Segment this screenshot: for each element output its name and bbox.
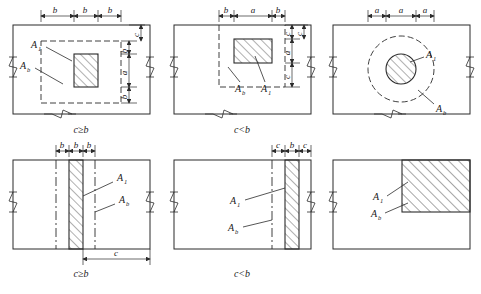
panel-5-a1-leader	[245, 188, 285, 200]
svg-text:A: A	[234, 83, 242, 94]
panel-6-a1-label: A 1	[372, 191, 383, 204]
svg-text:1: 1	[380, 197, 383, 204]
panel-4-dim-c: c	[114, 248, 118, 258]
panel-4-a1-label: A 1	[116, 172, 127, 185]
panel-4-a1-area	[69, 160, 83, 249]
panel-2-a1-area	[234, 39, 272, 63]
panel-2-ab-label: A b	[234, 83, 246, 96]
panel-4-ab-leader	[95, 204, 115, 212]
panel-4-ab-label: A b	[118, 194, 130, 207]
panel-1-dim-b2: b	[83, 5, 88, 15]
svg-text:1: 1	[268, 89, 271, 96]
svg-text:A: A	[116, 172, 124, 183]
panel-2-ab-leader	[228, 67, 240, 82]
panel-2-member	[174, 25, 311, 114]
panel-5-a1-area	[285, 160, 299, 249]
panel-5-caption: c<b	[234, 268, 250, 279]
panel-4-caption: c≥b	[74, 268, 89, 279]
svg-text:b: b	[126, 200, 130, 207]
panel-3	[329, 10, 474, 118]
panel-1-a1-area	[74, 54, 98, 87]
svg-text:1: 1	[237, 201, 240, 208]
svg-text:A: A	[372, 191, 380, 202]
svg-text:A: A	[435, 103, 443, 114]
svg-text:A: A	[19, 60, 27, 71]
panel-1-dim-b1: b	[53, 5, 58, 15]
panel-2-dim-b2: b	[276, 5, 281, 15]
panel-1-dim-ra: a	[119, 70, 129, 75]
panel-6	[329, 160, 470, 249]
panel-5-ab-leader	[243, 220, 272, 227]
svg-text:1: 1	[38, 45, 41, 52]
svg-text:A: A	[425, 49, 433, 60]
panel-2-dim-ra: a	[282, 50, 292, 55]
svg-text:A: A	[227, 222, 235, 233]
svg-text:1: 1	[124, 178, 127, 185]
panel-1-ab-leader	[35, 68, 63, 84]
panel-2-dim-c-outer: c	[294, 32, 304, 36]
panel-1-ab-label: A b	[19, 60, 31, 73]
svg-text:A: A	[370, 208, 378, 219]
panel-2-a1-label: A 1	[260, 83, 271, 96]
engineering-figure: b b b b a b c A 1 A b c≥b b a b c a c c …	[0, 0, 481, 294]
panel-2-dim-rc2: c	[282, 75, 292, 79]
panel-6-ab-label: A b	[370, 208, 382, 221]
panel-1-a1-leader	[46, 47, 72, 61]
panel-5-dim-c1: c	[276, 140, 280, 150]
panel-6-a1-area	[402, 160, 470, 212]
panel-5-dim-c2: c	[303, 140, 307, 150]
panel-3-a1-area	[386, 54, 416, 84]
svg-text:b: b	[27, 66, 31, 73]
panel-2	[170, 10, 315, 118]
panel-4-dim-b1: b	[60, 140, 65, 150]
svg-text:A: A	[30, 39, 38, 50]
svg-text:A: A	[229, 195, 237, 206]
panel-2-caption: c<b	[234, 124, 250, 135]
svg-text:A: A	[118, 194, 126, 205]
panel-5	[170, 145, 315, 249]
svg-text:A: A	[260, 83, 268, 94]
panel-3-a1-label: A 1	[425, 49, 436, 62]
panel-2-dim-rc1: c	[282, 32, 292, 36]
panel-1-caption: c≥b	[74, 124, 89, 135]
svg-text:1: 1	[433, 55, 436, 62]
panel-4-dim-b2: b	[74, 140, 79, 150]
panel-4-dim-b3: b	[87, 140, 92, 150]
panel-5-dim-b: b	[290, 140, 295, 150]
panel-4-a1-leader	[83, 182, 113, 196]
panel-1-dim-rb2: b	[119, 94, 129, 99]
panel-1-dim-b3: b	[108, 5, 113, 15]
panel-3-dim-a3: a	[423, 5, 428, 15]
svg-text:b: b	[235, 228, 239, 235]
panel-2-dim-b1: b	[224, 5, 229, 15]
panel-3-dim-a1: a	[375, 5, 380, 15]
panel-2-dim-a: a	[251, 5, 256, 15]
panel-5-ab-label: A b	[227, 222, 239, 235]
panel-3-ab-leader	[418, 90, 434, 104]
panel-1-dim-c: c	[131, 33, 141, 37]
svg-text:b: b	[443, 109, 447, 116]
svg-text:b: b	[378, 214, 382, 221]
panel-3-dim-a2: a	[399, 5, 404, 15]
panel-4	[9, 145, 154, 265]
panel-1-dim-rb1: b	[119, 48, 129, 53]
panel-5-a1-label: A 1	[229, 195, 240, 208]
panel-1-a1-label: A 1	[30, 39, 41, 52]
panel-1	[9, 10, 154, 118]
svg-text:b: b	[242, 89, 246, 96]
